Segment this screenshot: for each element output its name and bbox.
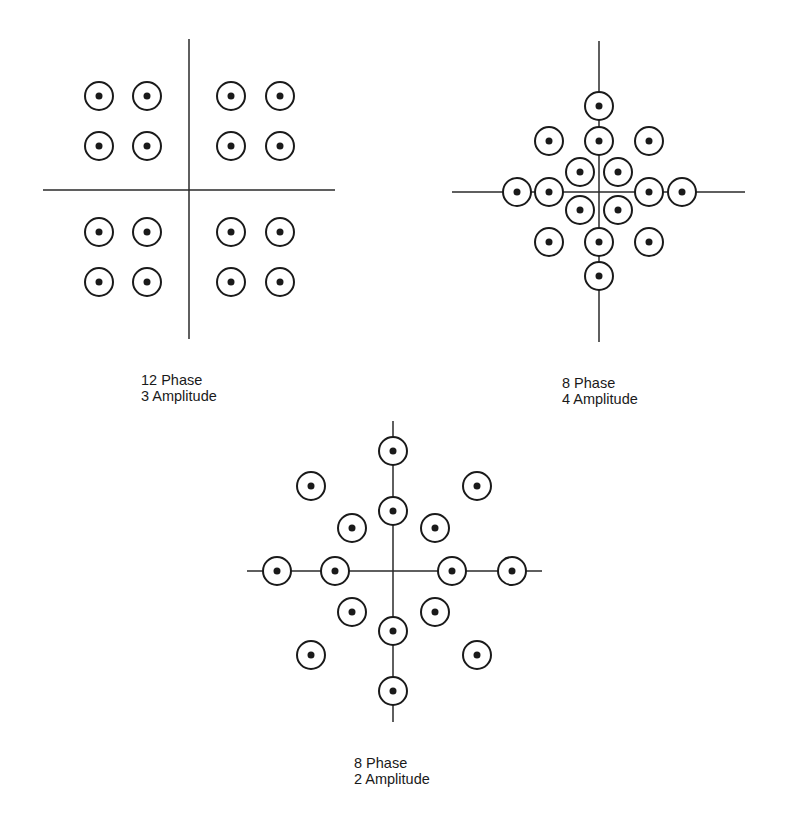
label-amplitude: 4 Amplitude bbox=[562, 391, 638, 407]
constellation-point-icon bbox=[635, 178, 663, 206]
constellation-point-icon bbox=[379, 497, 407, 525]
constellation-point-icon bbox=[321, 557, 349, 585]
constellation-point-icon bbox=[217, 268, 245, 296]
constellation-point-icon bbox=[566, 196, 594, 224]
label-phase: 8 Phase bbox=[354, 755, 430, 771]
constellation-point-icon bbox=[635, 228, 663, 256]
constellation-point-icon bbox=[85, 132, 113, 160]
constellation-point-icon bbox=[535, 178, 563, 206]
qam-8-phase-2-amplitude-diagram bbox=[247, 421, 542, 722]
constellation-point-icon bbox=[421, 598, 449, 626]
constellation-point-icon bbox=[535, 228, 563, 256]
constellation-point-icon bbox=[85, 218, 113, 246]
constellation-point-icon bbox=[338, 598, 366, 626]
label-phase: 8 Phase bbox=[562, 375, 638, 391]
label-12-phase-3-amplitude: 12 Phase 3 Amplitude bbox=[141, 372, 217, 404]
constellation-point-icon bbox=[266, 218, 294, 246]
constellation-point-icon bbox=[421, 514, 449, 542]
constellation-point-icon bbox=[604, 196, 632, 224]
label-8-phase-2-amplitude: 8 Phase 2 Amplitude bbox=[354, 755, 430, 787]
constellation-point-icon bbox=[668, 178, 696, 206]
constellation-point-icon bbox=[379, 677, 407, 705]
qam-8-phase-4-amplitude-diagram bbox=[452, 41, 745, 342]
constellation-point-icon bbox=[266, 268, 294, 296]
constellation-point-icon bbox=[379, 617, 407, 645]
constellation-point-icon bbox=[585, 127, 613, 155]
constellation-point-icon bbox=[604, 158, 632, 186]
constellation-point-icon bbox=[585, 228, 613, 256]
constellation-point-icon bbox=[438, 557, 466, 585]
label-phase: 12 Phase bbox=[141, 372, 217, 388]
constellation-point-icon bbox=[133, 268, 161, 296]
label-amplitude: 3 Amplitude bbox=[141, 388, 217, 404]
constellation-point-icon bbox=[635, 127, 663, 155]
constellation-point-icon bbox=[535, 127, 563, 155]
constellation-point-icon bbox=[266, 132, 294, 160]
label-8-phase-4-amplitude: 8 Phase 4 Amplitude bbox=[562, 375, 638, 407]
constellation-point-icon bbox=[297, 641, 325, 669]
constellation-point-icon bbox=[217, 132, 245, 160]
constellation-point-icon bbox=[133, 82, 161, 110]
constellation-point-icon bbox=[463, 641, 491, 669]
constellation-point-icon bbox=[263, 557, 291, 585]
constellation-point-icon bbox=[266, 82, 294, 110]
qam-12-phase-3-amplitude-diagram bbox=[43, 39, 335, 339]
constellation-point-icon bbox=[463, 472, 491, 500]
constellation-point-icon bbox=[566, 158, 594, 186]
constellation-point-icon bbox=[379, 437, 407, 465]
constellation-point-icon bbox=[85, 82, 113, 110]
constellation-point-icon bbox=[585, 92, 613, 120]
constellation-point-icon bbox=[503, 178, 531, 206]
constellation-point-icon bbox=[585, 262, 613, 290]
constellation-point-icon bbox=[133, 218, 161, 246]
diagram-canvas bbox=[0, 0, 791, 825]
constellation-point-icon bbox=[85, 268, 113, 296]
constellation-diagrams-figure: 12 Phase 3 Amplitude 8 Phase 4 Amplitude… bbox=[0, 0, 791, 825]
constellation-point-icon bbox=[217, 218, 245, 246]
constellation-point-icon bbox=[133, 132, 161, 160]
constellation-point-icon bbox=[338, 514, 366, 542]
constellation-point-icon bbox=[217, 82, 245, 110]
label-amplitude: 2 Amplitude bbox=[354, 771, 430, 787]
constellation-point-icon bbox=[297, 472, 325, 500]
constellation-point-icon bbox=[498, 557, 526, 585]
